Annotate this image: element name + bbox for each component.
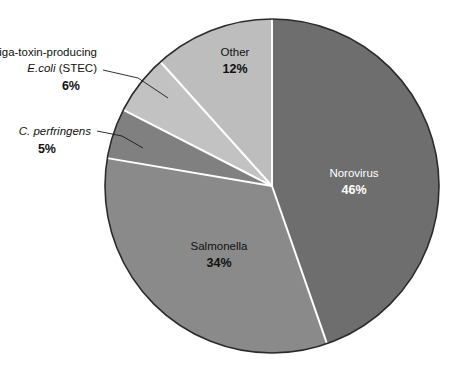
slice-label-salmonella-name: Salmonella: [191, 240, 248, 252]
pie-chart-svg: Other 12% Norovirus 46% Salmonella 34% S…: [0, 0, 455, 376]
slice-label-norovirus-value: 46%: [341, 183, 366, 197]
slice-label-salmonella-value: 34%: [206, 256, 231, 270]
slice-label-other-value: 12%: [222, 62, 247, 76]
callout-label-stec-qualifier: (STEC): [55, 62, 97, 74]
callout-label-stec-line1: Shiga-toxin-producing: [0, 46, 97, 58]
callout-label-stec-value: 6%: [62, 79, 80, 93]
slice-label-norovirus-name: Norovirus: [329, 167, 378, 179]
pie-chart-figure: Other 12% Norovirus 46% Salmonella 34% S…: [0, 0, 455, 376]
callout-label-cperfringens-name: C. perfringens: [19, 125, 91, 137]
slice-label-other-name: Other: [221, 46, 250, 58]
callout-label-stec-line2: E.coli (STEC): [27, 62, 97, 74]
callout-label-cperfringens-value: 5%: [38, 142, 56, 156]
callout-label-stec-species: E.coli: [27, 62, 56, 74]
